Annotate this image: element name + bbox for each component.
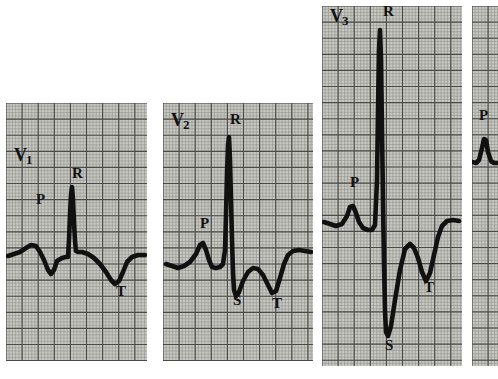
wave-label-p: P <box>350 174 359 190</box>
lead-label-subscript: 3 <box>342 13 349 28</box>
wave-label-r: R <box>383 6 394 19</box>
ecg-panel-v1: PRTV1 <box>6 103 147 361</box>
graph-paper-grid <box>472 6 498 366</box>
wave-label-t: T <box>116 283 126 299</box>
wave-label-t: T <box>424 279 434 295</box>
wave-label-p: P <box>479 107 488 123</box>
wave-label-t: T <box>272 295 282 311</box>
lead-label-subscript: 1 <box>26 152 33 167</box>
ecg-panel-v2: PRSTV2 <box>163 103 313 361</box>
lead-label-subscript: 2 <box>183 117 190 132</box>
graph-paper-grid <box>163 103 313 361</box>
ecg-panel-v3: PRSTV3 <box>322 6 462 366</box>
wave-label-p: P <box>200 215 209 231</box>
wave-label-s: S <box>233 292 241 308</box>
lead-label-v2: V2 <box>171 110 190 132</box>
ecg-figure: PRTV1PRSTV2PRSTV3P <box>0 0 498 379</box>
wave-label-s: S <box>385 337 393 353</box>
wave-label-r: R <box>72 165 83 181</box>
wave-label-p: P <box>36 191 45 207</box>
wave-label-r: R <box>230 111 241 127</box>
ecg-panel-v4: P <box>472 6 498 366</box>
